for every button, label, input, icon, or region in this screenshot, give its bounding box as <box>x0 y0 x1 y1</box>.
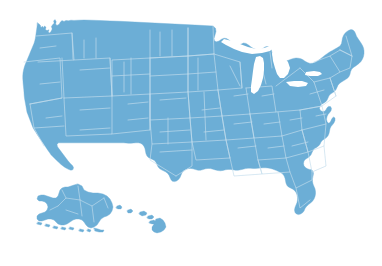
us-map-svg <box>0 0 382 266</box>
us-map-figure: Map of the United States Silhouette map … <box>0 0 382 266</box>
